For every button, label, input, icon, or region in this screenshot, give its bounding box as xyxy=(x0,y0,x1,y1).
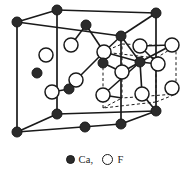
legend: Ca, F xyxy=(0,146,189,173)
calcium-atom xyxy=(98,58,108,68)
crystal-structure-figure: Ca, F xyxy=(0,0,189,173)
calcium-atom xyxy=(81,20,91,30)
fluorine-atom xyxy=(165,38,179,52)
calcium-atom xyxy=(151,106,161,116)
calcium-atom xyxy=(116,31,126,41)
fluorine-atom xyxy=(97,45,111,59)
legend-label-f: F xyxy=(117,154,123,165)
calcium-atom xyxy=(32,68,42,78)
filled-circle-icon xyxy=(66,155,75,164)
unit-cell-edge xyxy=(17,22,121,36)
unit-cell-edge xyxy=(121,111,156,124)
calcium-atom xyxy=(135,57,145,67)
fluorine-atom xyxy=(151,57,165,71)
sub-cube-edge xyxy=(103,102,156,108)
legend-item-f: F xyxy=(102,154,123,165)
calcium-atom xyxy=(64,84,74,94)
fluorine-atom xyxy=(115,65,129,79)
open-circle-icon xyxy=(102,154,113,165)
legend-item-ca: Ca, xyxy=(66,154,94,165)
calcium-atom xyxy=(116,119,126,129)
fluorine-atom xyxy=(45,85,59,99)
calcium-atom xyxy=(52,109,62,119)
unit-cell-edge xyxy=(57,10,156,13)
calcium-atom xyxy=(12,17,22,27)
unit-cell-edge xyxy=(121,13,156,36)
fluorine-atom xyxy=(133,39,147,53)
fluorine-atom xyxy=(135,87,149,101)
fluorine-atom xyxy=(64,38,78,52)
fluorine-atom xyxy=(165,81,179,95)
calcium-atom xyxy=(80,122,90,132)
legend-label-ca: Ca, xyxy=(79,154,94,165)
unit-cell-edge xyxy=(17,10,57,22)
fluorine-atom xyxy=(96,88,110,102)
calcium-atom xyxy=(52,5,62,15)
fluorine-atom xyxy=(39,48,53,62)
calcium-atom xyxy=(151,8,161,18)
calcium-atom xyxy=(12,127,22,137)
fluorine-atoms xyxy=(39,38,179,102)
unit-cell-edge xyxy=(57,111,156,114)
unit-cell-diagram xyxy=(0,0,189,146)
